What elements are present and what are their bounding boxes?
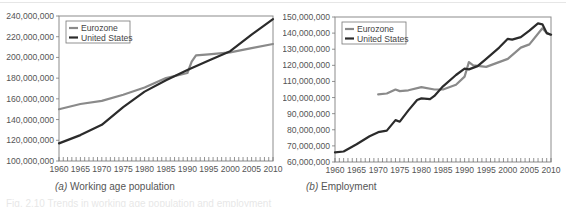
y-tick-label: 140,000,000: [6, 115, 54, 125]
y-tick-label: 90,000,000: [287, 109, 330, 119]
y-tick-label: 120,000,000: [6, 135, 54, 145]
y-tick-label: 140,000,000: [283, 28, 330, 38]
x-tick-label: 2005: [520, 165, 539, 175]
x-tick-label: 2000: [221, 164, 240, 174]
x-tick-label: 2010: [541, 165, 560, 175]
chart-caption-b: (b) Employment: [306, 181, 377, 192]
y-tick-label: 80,000,000: [287, 125, 330, 135]
y-tick-label: 160,000,000: [6, 94, 54, 104]
figure-caption: Fig. 2.10 Trends in working age populati…: [6, 198, 271, 207]
x-tick-label: 1990: [178, 164, 197, 174]
caption-text: Employment: [321, 181, 377, 192]
x-tick-label: 1980: [412, 165, 431, 175]
caption-text: Working age population: [70, 181, 175, 192]
legend: EurozoneUnited States: [342, 22, 409, 44]
x-tick-label: 1970: [369, 165, 388, 175]
y-tick-label: 200,000,000: [6, 52, 54, 62]
y-tick-label: 100,000,000: [6, 156, 54, 166]
y-tick-label: 220,000,000: [6, 32, 54, 42]
y-tick-label: 120,000,000: [283, 60, 330, 70]
x-tick-label: 1995: [477, 165, 496, 175]
x-tick-label: 2000: [498, 165, 517, 175]
panel-label: (b): [306, 181, 318, 192]
y-tick-label: 60,000,000: [287, 157, 330, 167]
chart-panel-employment: 60,000,00070,000,00080,000,00090,000,000…: [283, 0, 566, 207]
y-tick-label: 100,000,000: [283, 93, 330, 103]
x-tick-label: 1965: [347, 165, 366, 175]
line-chart-employment: 60,000,00070,000,00080,000,00090,000,000…: [283, 0, 566, 207]
x-tick-label: 1985: [156, 164, 175, 174]
x-tick-label: 2005: [242, 164, 261, 174]
y-tick-label: 150,000,000: [283, 12, 330, 22]
x-tick-label: 1970: [92, 164, 111, 174]
line-chart-working-age-population: 100,000,000120,000,000140,000,000160,000…: [0, 0, 283, 207]
y-tick-label: 110,000,000: [283, 76, 330, 86]
y-tick-label: 130,000,000: [283, 44, 330, 54]
legend-label: Eurozone: [357, 24, 394, 34]
y-tick-label: 180,000,000: [6, 73, 54, 83]
legend-label: United States: [357, 34, 409, 44]
series-line-eurozone: [59, 44, 273, 109]
x-tick-label: 1960: [49, 164, 68, 174]
x-tick-label: 1960: [325, 165, 344, 175]
x-tick-label: 1990: [455, 165, 474, 175]
chart-panel-working-age-population: 100,000,000120,000,000140,000,000160,000…: [0, 0, 283, 207]
legend-label: Eurozone: [81, 23, 118, 33]
x-tick-label: 1975: [114, 164, 133, 174]
x-tick-label: 1965: [71, 164, 90, 174]
x-tick-label: 1975: [390, 165, 409, 175]
legend-label: United States: [81, 33, 133, 43]
x-tick-label: 1980: [135, 164, 154, 174]
chart-caption: (a) Working age population: [55, 181, 175, 192]
x-tick-label: 1985: [433, 165, 452, 175]
y-tick-label: 240,000,000: [6, 11, 54, 21]
x-tick-label: 2010: [263, 164, 282, 174]
y-tick-label: 70,000,000: [287, 141, 330, 151]
legend: EurozoneUnited States: [66, 21, 133, 43]
x-tick-label: 1995: [199, 164, 218, 174]
panel-label: (a): [55, 181, 67, 192]
